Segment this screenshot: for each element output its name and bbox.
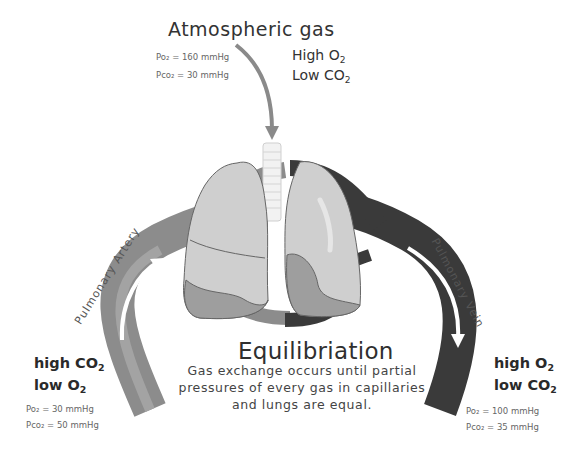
vein-po2: Po₂ = 100 mmHg: [466, 404, 539, 419]
left-lung: [184, 162, 268, 318]
inhalation-arrow: [236, 45, 279, 140]
level-text: high: [34, 355, 70, 371]
atmosphere-co2-level: Low CO2: [292, 64, 351, 91]
atmosphere-po2: Po₂ = 160 mmHg: [156, 50, 229, 65]
atmosphere-po2-text: Po₂ = 160 mmHg: [156, 52, 229, 62]
gas-text: CO: [527, 377, 550, 393]
gas-text: O: [535, 355, 547, 371]
level-text: High: [292, 47, 324, 63]
artery-pco2: Pco₂ = 50 mmHg: [26, 418, 99, 433]
equilibration-heading: Equilibriation: [238, 338, 394, 364]
subscript: 2: [80, 384, 87, 395]
level-text: low: [494, 377, 522, 393]
subscript: 2: [547, 362, 554, 373]
gas-text: O: [67, 377, 79, 393]
artery-po2: Po₂ = 30 mmHg: [26, 402, 94, 417]
vein-pco2: Pco₂ = 35 mmHg: [466, 420, 539, 435]
vein-co2-level: low CO2: [494, 374, 557, 401]
atmosphere-pco2-text: Pco₂ = 30 mmHg: [156, 70, 229, 80]
equilibration-description: Gas exchange occurs until partial pressu…: [172, 362, 432, 413]
diagram-title: Atmospheric gas: [168, 18, 335, 40]
level-text: Low: [292, 67, 320, 83]
gas-text: CO: [75, 355, 98, 371]
atmosphere-pco2: Pco₂ = 30 mmHg: [156, 68, 229, 83]
artery-o2-level: low O2: [34, 374, 86, 401]
subscript: 2: [98, 362, 105, 373]
subscript: 2: [345, 75, 351, 85]
gas-text: O: [329, 47, 340, 63]
gas-text: CO: [324, 67, 345, 83]
level-text: low: [34, 377, 62, 393]
level-text: high: [494, 355, 530, 371]
subscript: 2: [550, 384, 557, 395]
